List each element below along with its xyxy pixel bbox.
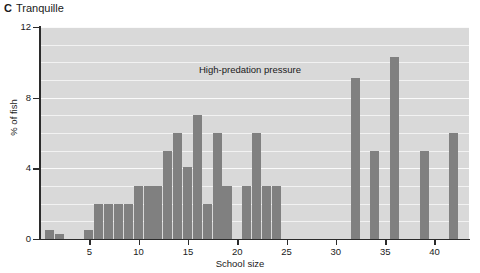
- bar: [144, 186, 153, 239]
- bar: [124, 204, 133, 239]
- y-tick-mark: [33, 27, 39, 28]
- x-tick-mark: [434, 240, 435, 245]
- bar: [351, 78, 360, 239]
- y-tick-label: 8: [10, 92, 31, 103]
- y-tick-mark: [33, 98, 39, 99]
- x-tick-mark: [89, 240, 90, 245]
- figure-panel: CTranquille % of fish High-predation pre…: [0, 0, 480, 273]
- x-tick-label: 5: [87, 246, 92, 257]
- bar: [134, 186, 143, 239]
- bar: [272, 186, 281, 239]
- x-tick-label: 10: [133, 246, 144, 257]
- y-tick-label: 0: [10, 233, 31, 244]
- bar: [252, 133, 261, 239]
- bar: [222, 186, 231, 239]
- bar: [153, 186, 162, 239]
- x-tick-mark: [385, 240, 386, 245]
- bar: [94, 204, 103, 239]
- gridline: [40, 115, 469, 116]
- bar: [193, 115, 202, 239]
- y-tick-label: 12: [10, 21, 31, 32]
- x-tick-label: 30: [331, 246, 342, 257]
- bar: [370, 151, 379, 239]
- x-tick-mark: [336, 240, 337, 245]
- x-tick-mark: [237, 240, 238, 245]
- bar: [390, 57, 399, 239]
- bar: [173, 133, 182, 239]
- x-tick-mark: [287, 240, 288, 245]
- y-tick-label: 4: [10, 162, 31, 173]
- bar: [203, 204, 212, 239]
- x-tick-label: 15: [183, 246, 194, 257]
- y-tick-mark: [33, 168, 39, 169]
- y-axis-line: [39, 26, 41, 240]
- gridline: [40, 80, 469, 81]
- bar: [420, 151, 429, 239]
- bar: [104, 204, 113, 239]
- y-tick-mark: [33, 239, 39, 240]
- bar: [449, 133, 458, 239]
- bar: [262, 186, 271, 239]
- x-tick-label: 35: [380, 246, 391, 257]
- bar: [163, 151, 172, 239]
- x-tick-mark: [188, 240, 189, 245]
- gridline: [40, 98, 469, 99]
- x-axis-line: [39, 239, 470, 241]
- x-tick-label: 40: [429, 246, 440, 257]
- x-tick-label: 20: [232, 246, 243, 257]
- bar: [213, 133, 222, 239]
- panel-letter: C: [4, 2, 12, 14]
- page-title: CTranquille: [4, 2, 64, 14]
- chart-annotation: High-predation pressure: [199, 64, 301, 75]
- x-tick-label: 25: [281, 246, 292, 257]
- x-tick-mark: [139, 240, 140, 245]
- plot-area: High-predation pressure: [40, 27, 469, 239]
- x-axis-label: School size: [0, 258, 480, 269]
- gridline: [40, 45, 469, 46]
- panel-title-text: Tranquille: [16, 2, 64, 14]
- bar: [114, 204, 123, 239]
- gridline: [40, 27, 469, 28]
- bar: [242, 186, 251, 239]
- bar: [183, 167, 192, 239]
